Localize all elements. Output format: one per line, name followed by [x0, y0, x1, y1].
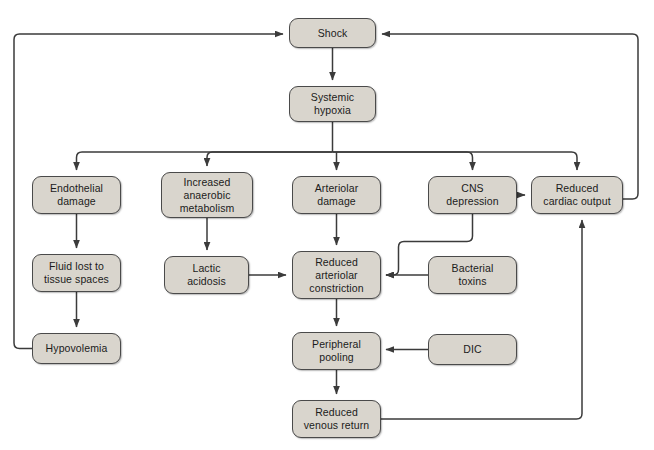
node-bacterial-toxins[interactable]: Bacterial toxins	[428, 256, 517, 294]
node-increased-anaerobic-metabolism[interactable]: Increased anaerobic metabolism	[161, 172, 253, 218]
node-label-bacterial-toxins: Bacterial toxins	[452, 262, 494, 288]
edge-bus-to-reduced-cardiac-output	[333, 152, 578, 170]
bottom-caption-artifact	[0, 438, 654, 450]
node-fluid-lost-to-tissue-spaces[interactable]: Fluid lost to tissue spaces	[32, 254, 121, 292]
node-dic[interactable]: DIC	[428, 334, 517, 365]
node-peripheral-pooling[interactable]: Peripheral pooling	[292, 332, 381, 370]
node-systemic-hypoxia[interactable]: Systemic hypoxia	[289, 86, 376, 122]
node-label-fluid-lost-to-tissue-spaces: Fluid lost to tissue spaces	[44, 260, 109, 286]
node-label-reduced-venous-return: Reduced venous return	[304, 406, 370, 432]
edge-bus-to-increased-anaerobic	[207, 152, 333, 166]
node-label-hypovolemia: Hypovolemia	[46, 342, 108, 355]
node-label-reduced-cardiac-output: Reduced cardiac output	[543, 182, 610, 208]
node-label-cns-depression: CNS depression	[446, 182, 498, 208]
node-label-systemic-hypoxia: Systemic hypoxia	[311, 91, 354, 117]
node-label-shock: Shock	[318, 27, 348, 40]
node-label-reduced-arteriolar-constriction: Reduced arteriolar constriction	[309, 256, 363, 295]
node-shock[interactable]: Shock	[289, 18, 376, 48]
node-label-endothelial-damage: Endothelial damage	[50, 182, 103, 208]
node-cns-depression[interactable]: CNS depression	[428, 176, 517, 214]
node-lactic-acidosis[interactable]: Lactic acidosis	[164, 256, 249, 294]
node-arteriolar-damage[interactable]: Arteriolar damage	[292, 176, 381, 214]
node-label-increased-anaerobic-metabolism: Increased anaerobic metabolism	[180, 176, 235, 215]
edge-bus-left	[77, 152, 333, 170]
edge-bus-to-cns-depression	[333, 152, 473, 170]
node-label-lactic-acidosis: Lactic acidosis	[187, 262, 226, 288]
edge-layer	[0, 0, 654, 450]
node-label-dic: DIC	[463, 343, 481, 356]
node-label-arteriolar-damage: Arteriolar damage	[315, 182, 359, 208]
node-hypovolemia[interactable]: Hypovolemia	[32, 333, 121, 364]
node-reduced-arteriolar-constriction[interactable]: Reduced arteriolar constriction	[292, 251, 381, 299]
edge-venous-return-to-reduced-cardiac-output	[381, 220, 582, 419]
node-reduced-cardiac-output[interactable]: Reduced cardiac output	[531, 176, 623, 214]
flowchart-diagram: Shock Systemic hypoxia Endothelial damag…	[0, 0, 654, 450]
edge-reduced-cardiac-output-to-shock	[382, 34, 638, 199]
node-reduced-venous-return[interactable]: Reduced venous return	[292, 400, 381, 438]
node-label-peripheral-pooling: Peripheral pooling	[312, 338, 361, 364]
node-endothelial-damage[interactable]: Endothelial damage	[32, 176, 121, 214]
